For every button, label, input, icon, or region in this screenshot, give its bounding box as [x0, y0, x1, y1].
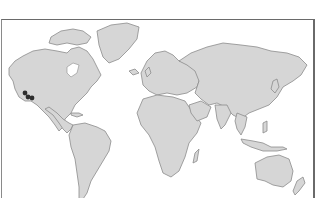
madagascar: [193, 149, 199, 163]
southeast-asia: [235, 113, 247, 135]
north-america: [9, 47, 101, 131]
world-map-svg: [2, 20, 315, 198]
indian-subcontinent: [215, 105, 231, 129]
map-marker[interactable]: [30, 96, 35, 101]
map-marker[interactable]: [23, 91, 28, 96]
iceland: [129, 69, 139, 75]
world-map: [1, 19, 315, 198]
australia: [255, 155, 293, 187]
south-america: [69, 123, 111, 198]
caribbean-islands: [71, 113, 83, 117]
map-marker[interactable]: [26, 95, 31, 100]
new-zealand: [293, 177, 305, 195]
indonesia: [241, 139, 287, 151]
philippines: [263, 121, 267, 133]
arctic-islands: [49, 29, 91, 45]
greenland: [97, 23, 139, 63]
